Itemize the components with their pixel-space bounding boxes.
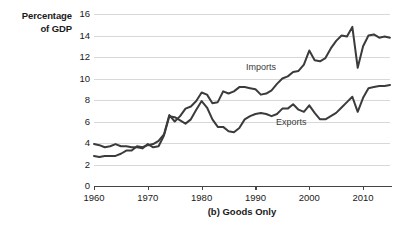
y-axis-tick-label: 12 xyxy=(68,52,90,62)
x-axis-tick-label: 1960 xyxy=(74,192,114,203)
y-axis-tick-label: 2 xyxy=(68,160,90,170)
y-axis-title: Percentage of GDP xyxy=(2,10,72,35)
series-lines xyxy=(94,14,390,186)
series-line-exports xyxy=(94,85,390,148)
y-axis-tick-label: 14 xyxy=(68,31,90,41)
series-label-exports: Exports xyxy=(276,117,307,127)
y-axis-tick-label: 8 xyxy=(68,95,90,105)
x-axis-tick-label: 1970 xyxy=(128,192,168,203)
series-line-imports xyxy=(94,27,390,157)
x-axis-tick-mark xyxy=(202,186,203,190)
x-axis-tick-label: 2010 xyxy=(343,192,383,203)
y-axis-tick-label: 16 xyxy=(68,9,90,19)
series-label-imports: Imports xyxy=(246,62,276,72)
y-axis-tick-label: 0 xyxy=(68,181,90,191)
x-axis-tick-label: 1980 xyxy=(182,192,222,203)
x-axis-tick-mark xyxy=(94,186,95,190)
x-axis-tick-mark xyxy=(255,186,256,190)
chart-caption: (b) Goods Only xyxy=(94,206,390,217)
x-axis-tick-label: 1990 xyxy=(235,192,275,203)
y-axis-tick-label: 10 xyxy=(68,74,90,84)
y-axis-tick-label: 4 xyxy=(68,138,90,148)
x-axis-line xyxy=(94,186,392,187)
x-axis-tick-mark xyxy=(363,186,364,190)
y-axis-tick-labels: 0246810121416 xyxy=(68,14,90,186)
y-axis-tick-label: 6 xyxy=(68,117,90,127)
plot-area xyxy=(94,14,390,186)
y-axis-title-line1: Percentage xyxy=(2,10,72,23)
chart-container: Percentage of GDP 0246810121416 19601970… xyxy=(0,0,401,227)
x-axis-tick-mark xyxy=(309,186,310,190)
y-axis-title-line2: of GDP xyxy=(2,23,72,36)
x-axis-tick-mark xyxy=(148,186,149,190)
x-axis-tick-label: 2000 xyxy=(289,192,329,203)
